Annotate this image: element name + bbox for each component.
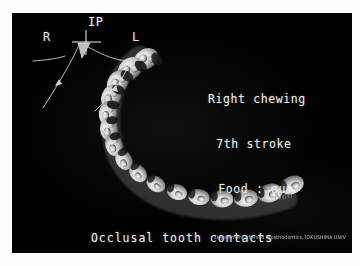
arrowhead-left-icon (55, 79, 62, 86)
trace-apex-left (84, 45, 120, 60)
trace-descending-limb (43, 47, 78, 108)
department-credit: Department of Fixed Prosthodontics,TOKUS… (12, 234, 346, 240)
left-side-label: L (132, 30, 139, 44)
figure-root: IP R L Right chewing 7th stroke Food : g… (0, 0, 360, 266)
annotation-line-food: Food : gum (208, 182, 306, 197)
annotation-line-stroke: 7th stroke (208, 137, 306, 152)
annotation-line-chewing-side: Right chewing (208, 92, 306, 107)
trace-right-leadin (33, 56, 65, 61)
incisal-point-label: IP (88, 15, 103, 29)
trace-arrowheads (55, 79, 118, 92)
trace-return-limb (95, 63, 130, 111)
trace-left-leadout (120, 60, 143, 61)
caption-block: Occlusal tooth contacts <1mm to the inte… (12, 201, 352, 253)
right-side-label: R (43, 30, 50, 44)
photo-plate: IP R L Right chewing 7th stroke Food : g… (12, 13, 352, 253)
triangle-pointer-icon (78, 43, 90, 58)
